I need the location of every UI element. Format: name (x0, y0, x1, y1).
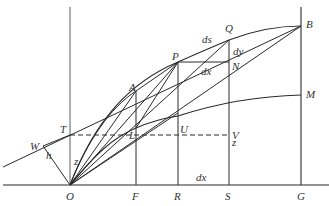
annotation-z-left: z (73, 155, 79, 167)
diagram-canvas: O F R S G T W A L P Q N U V B M ds dy dx… (0, 0, 329, 206)
label-G: G (297, 190, 305, 202)
label-S: S (225, 190, 231, 202)
label-Q: Q (225, 22, 233, 34)
lower-curve-OLUM (70, 95, 301, 185)
tangent-line-TB (3, 26, 301, 167)
label-A: A (128, 81, 136, 93)
label-R: R (173, 190, 181, 202)
line-OA (70, 91, 136, 185)
line-WT (43, 135, 70, 146)
label-O: O (66, 190, 74, 202)
annotation-dy: dy (233, 45, 244, 57)
annotation-h: h (46, 149, 52, 161)
annotation-ds: ds (202, 33, 212, 45)
geometry-diagram: O F R S G T W A L P Q N U V B M ds dy dx… (0, 0, 329, 206)
annotation-z-right: z (231, 136, 237, 148)
label-U: U (180, 123, 189, 135)
label-N: N (231, 60, 240, 72)
label-M: M (305, 88, 316, 100)
label-L: L (128, 129, 135, 141)
label-F: F (131, 190, 139, 202)
annotation-dx-top: dx (201, 65, 212, 77)
label-T: T (60, 123, 67, 135)
label-W: W (30, 140, 40, 152)
line-OB (70, 26, 301, 185)
annotation-dx-bottom: dx (196, 171, 207, 183)
label-P: P (171, 50, 179, 62)
label-B: B (306, 18, 313, 30)
